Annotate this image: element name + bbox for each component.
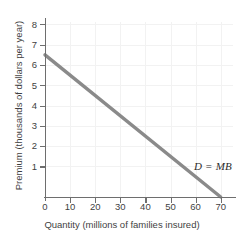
x-axis-tick-label: 50 [161,201,181,212]
y-axis-tick-label: 7 [24,40,37,50]
y-axis-tick [40,106,45,107]
demand-curve-label: D = MB [194,160,232,172]
y-axis-tick [40,85,45,86]
y-axis-tick-label: 2 [24,141,37,151]
y-axis-tick-label: 5 [24,81,37,91]
demand-curve-chart: 8 7 6 5 4 3 2 1 0 10 20 30 40 50 60 70 D… [0,0,244,239]
x-axis-line [44,197,236,198]
x-axis-tick-label: 10 [60,201,80,212]
y-axis-tick-label: 8 [24,20,37,30]
x-axis-tick-label: 40 [135,201,155,212]
y-axis-tick-label: 6 [24,60,37,70]
y-axis-tick [40,126,45,127]
y-axis-tick-label: 4 [24,101,37,111]
x-axis-tick-label: 20 [85,201,105,212]
x-axis-tick-label: 70 [211,201,231,212]
y-axis-title: Premium (thousands of dollars per year) [13,11,24,201]
x-axis-tick-label: 60 [186,201,206,212]
y-axis-tick [40,45,45,46]
x-axis-tick-label: 0 [35,201,55,212]
y-axis-tick [40,65,45,66]
y-axis-tick-label: 1 [24,162,37,172]
y-axis-tick [40,166,45,167]
x-axis-title: Quantity (millions of families insured) [0,219,244,230]
y-axis-tick [40,146,45,147]
y-axis-tick-label: 3 [24,121,37,131]
x-axis-tick-label: 30 [110,201,130,212]
y-axis-tick [40,24,45,25]
y-axis-line [45,18,46,201]
